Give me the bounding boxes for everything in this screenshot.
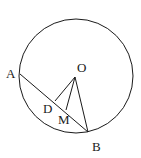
label-b: B [92,139,101,154]
geometry-diagram: O A B D M [0,0,141,158]
label-a: A [6,66,16,81]
label-d: D [43,101,52,116]
label-m: M [58,112,70,127]
circle-o [19,19,133,133]
label-o: O [77,60,86,75]
chord-ab [20,74,88,132]
segment-ob [75,77,88,132]
